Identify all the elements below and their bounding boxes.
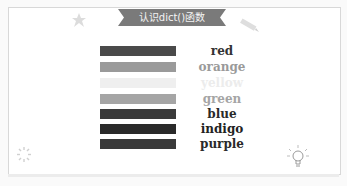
- color-bar-indigo: [100, 124, 176, 134]
- color-bar-green: [100, 94, 176, 104]
- color-bar-blue: [100, 109, 176, 119]
- color-label-blue: blue: [192, 107, 252, 121]
- color-label-yellow: yellow: [192, 76, 252, 90]
- frame-shadow: [8, 174, 339, 177]
- color-label-green: green: [192, 92, 252, 106]
- color-label-purple: purple: [192, 137, 252, 151]
- color-bar-red: [100, 46, 176, 56]
- color-label-red: red: [192, 44, 252, 58]
- pencil-icon: [238, 17, 260, 33]
- color-bar-yellow: [100, 78, 176, 88]
- color-label-indigo: indigo: [192, 122, 252, 136]
- color-bar-orange: [100, 62, 176, 72]
- star-icon: [72, 13, 86, 27]
- banner-title: 认识dict()函数: [118, 9, 226, 26]
- color-bar-purple: [100, 139, 176, 149]
- color-label-orange: orange: [192, 60, 252, 74]
- sparkle-icon: [14, 146, 34, 164]
- title-banner: 认识dict()函数: [118, 9, 226, 26]
- lightbulb-icon: [285, 143, 311, 171]
